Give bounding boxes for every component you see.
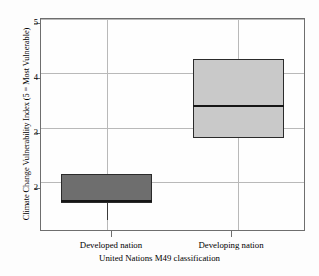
y-axis-title: Climate Change Vulnerability Index (5 = … <box>18 8 36 240</box>
x-tick-mark-1 <box>111 231 112 237</box>
plot-area <box>40 18 305 231</box>
y-tick-label-4: 4 <box>18 73 38 82</box>
y-tick-label-3: 3 <box>18 128 38 137</box>
box-developing-nation <box>193 59 284 138</box>
whisker-lower-developed <box>107 203 108 220</box>
box-developed-nation <box>61 174 152 203</box>
x-tick-label-developing: Developing nation <box>171 240 291 251</box>
x-tick-label-developed: Developed nation <box>51 240 171 251</box>
y-tick-label-5: 5 <box>18 18 38 27</box>
median-line-developing <box>193 105 284 107</box>
x-tick-mark-2 <box>231 231 232 237</box>
gridline-5 <box>41 19 304 20</box>
y-tick-label-2: 2 <box>18 183 38 192</box>
boxplot-figure: Climate Change Vulnerability Index (5 = … <box>0 0 319 276</box>
median-line-developed <box>61 200 152 202</box>
x-axis-title: United Nations M49 classification <box>0 253 319 263</box>
